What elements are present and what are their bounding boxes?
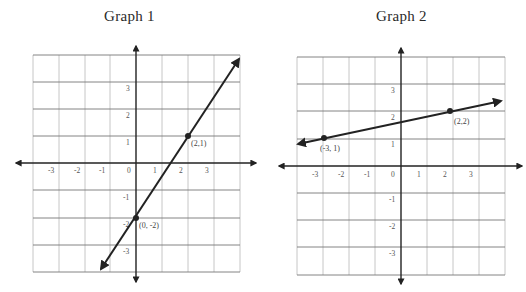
- graph-2-point-2-2: [447, 108, 453, 114]
- graph-1-x-tick: 0: [127, 166, 131, 175]
- graph-2-y-tick: 3: [391, 86, 395, 95]
- graph-1-y-tick: -1: [123, 193, 129, 202]
- graph-2-point-label: (-3, 1): [320, 144, 340, 153]
- graph-1-x-tick: 3: [205, 166, 209, 175]
- graph-1-line: [101, 59, 239, 269]
- graph-1-y-tick: 3: [126, 84, 130, 93]
- charts-canvas: -3 -2 -1 0 1 2 3 3 2 1 -1 -2 -3 (2,1) (0…: [0, 0, 526, 292]
- graph-2-x-tick: -1: [364, 170, 370, 179]
- graph-2-point-label: (2,2): [454, 117, 470, 126]
- graph-2-y-tick: 1: [391, 140, 395, 149]
- graph-2-x-tick: 2: [443, 170, 447, 179]
- graph-2-x-tick: 3: [469, 170, 473, 179]
- graph-1-y-tick: 1: [126, 138, 130, 147]
- graph-2: -3 -2 -1 0 1 2 3 3 2 1 -1 -2 -3 (-3, 1) …: [279, 48, 522, 284]
- graph-1-point-label: (0, -2): [139, 221, 159, 230]
- graph-1-point-label: (2,1): [191, 139, 207, 148]
- graph-1-x-tick: -2: [74, 166, 80, 175]
- graph-1-x-tick: 2: [179, 166, 183, 175]
- graph-2-point-neg3-1: [321, 135, 327, 141]
- graph-2-y-tick: -1: [389, 195, 395, 204]
- graph-2-x-tick: 1: [417, 170, 421, 179]
- graph-1: -3 -2 -1 0 1 2 3 3 2 1 -1 -2 -3 (2,1) (0…: [16, 46, 256, 282]
- graph-1-x-tick: -3: [48, 166, 54, 175]
- graph-2-y-tick: -2: [389, 222, 395, 231]
- graph-2-y-tick: -3: [389, 249, 395, 258]
- graph-2-line: [298, 101, 501, 144]
- graph-1-y-tick: -3: [123, 247, 129, 256]
- graph-2-x-tick: -3: [312, 170, 318, 179]
- graph-2-x-tick: 0: [391, 170, 395, 179]
- graph-1-y-tick: 2: [126, 111, 130, 120]
- graph-1-x-tick: -1: [99, 166, 105, 175]
- graph-1-x-tick: 1: [153, 166, 157, 175]
- graph-2-y-tick: 2: [391, 113, 395, 122]
- graph-2-x-tick: -2: [338, 170, 344, 179]
